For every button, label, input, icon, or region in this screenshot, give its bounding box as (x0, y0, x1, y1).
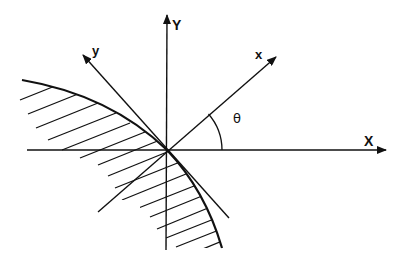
label-theta: θ (233, 112, 241, 125)
label-y-axis: y (92, 44, 99, 57)
label-Y-axis: Y (172, 18, 181, 32)
label-X-axis: X (364, 134, 373, 148)
label-x-axis: x (255, 48, 262, 61)
diagram-canvas: Y y x θ X (0, 0, 413, 267)
y-axis-rotated (83, 55, 229, 218)
diagram-svg (0, 0, 413, 267)
hatch-region (20, 84, 222, 256)
theta-arc (209, 114, 223, 150)
Y-axis (166, 15, 167, 250)
boundary-curve (22, 80, 222, 248)
